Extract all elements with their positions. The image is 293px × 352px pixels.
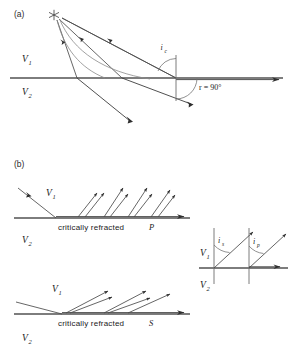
svg-text:1: 1 <box>53 193 56 200</box>
svg-text:i: i <box>253 237 255 246</box>
medium-label-v1-inset: V 1 <box>200 248 210 260</box>
medium-label-v2-p: V 2 <box>22 235 33 247</box>
head-wave-arrows-p <box>78 188 175 217</box>
svg-text:c: c <box>165 48 168 54</box>
medium-label-v2-s: V 2 <box>22 333 33 345</box>
medium-label-v2-a: V 2 <box>22 87 33 99</box>
refraction-angle-arc <box>176 79 197 100</box>
medium-label-v1-p: V 1 <box>46 188 56 200</box>
p-subpanel: V 1 V 2 <box>14 188 190 247</box>
svg-text:p: p <box>256 242 260 248</box>
panel-a: (a) V 1 V 2 <box>10 9 283 123</box>
wavefronts-a <box>57 19 150 79</box>
svg-text:critically refracted: critically refracted <box>58 223 124 232</box>
star-source-icon <box>49 10 59 20</box>
svg-text:i: i <box>161 43 163 52</box>
angle-label-s-inset: i s <box>218 236 224 247</box>
svg-text:2: 2 <box>29 338 33 345</box>
svg-text:1: 1 <box>207 253 210 260</box>
medium-label-v2-inset: V 2 <box>200 280 211 292</box>
refraction-angle-label: r = 90° <box>199 83 221 92</box>
panel-a-label: (a) <box>14 9 25 19</box>
angle-inset: V 1 V 2 i s i p <box>199 228 288 292</box>
critical-angle-arc <box>158 59 176 72</box>
medium-label-v1-s: V 1 <box>52 284 62 296</box>
caption-p: critically refracted P <box>58 222 154 232</box>
caption-s: critically refracted S <box>58 318 154 328</box>
svg-text:2: 2 <box>29 92 33 99</box>
s-subpanel: V 1 V 2 critically refracted <box>14 284 190 345</box>
svg-text:critically refracted: critically refracted <box>58 319 124 328</box>
angle-label-p-inset: i p <box>253 237 260 248</box>
svg-text:1: 1 <box>29 59 32 66</box>
panel-b-label: (b) <box>14 159 25 169</box>
svg-text:2: 2 <box>29 240 33 247</box>
svg-text:1: 1 <box>59 289 62 296</box>
panel-b: (b) V 1 V 2 <box>14 159 288 345</box>
critical-angle-label: i c <box>161 43 168 54</box>
svg-text:s: s <box>222 241 224 247</box>
svg-text:P: P <box>148 222 154 232</box>
incident-ray-s <box>16 302 62 314</box>
medium-label-v1-a: V 1 <box>22 54 32 66</box>
svg-text:i: i <box>218 236 220 245</box>
head-wave-arrows-s <box>66 291 170 313</box>
svg-text:S: S <box>149 318 154 328</box>
refraction-figure: (a) V 1 V 2 <box>0 0 293 352</box>
svg-text:2: 2 <box>207 285 211 292</box>
